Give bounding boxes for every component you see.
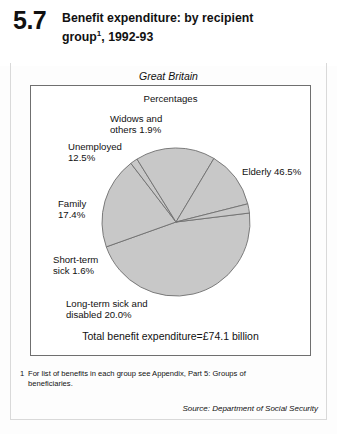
pie-label-family: Family 17.4% (58, 198, 86, 221)
title-line-1: Benefit expenditure: by recipient (62, 11, 253, 25)
pie-slices (102, 148, 250, 296)
region-label: Great Britain (0, 70, 337, 82)
pie-label-shortterm-sick: Short-term sick 1.6% (53, 254, 98, 277)
pie-label-widows-others: Widows and others 1.9% (110, 113, 162, 136)
footnote: 1 For list of benefits in each group see… (20, 369, 280, 388)
pie-label-elderly: Elderly 46.5% (242, 166, 301, 177)
footnote-number: 1 (20, 369, 24, 379)
total-expenditure-label: Total benefit expenditure=£74.1 billion (30, 330, 311, 342)
pie-label-longterm-sick: Long-term sick and disabled 20.0% (66, 298, 148, 321)
figure-number: 5.7 (13, 8, 46, 33)
footnote-text: For list of benefits in each group see A… (28, 369, 280, 388)
figure-header: 5.7 Benefit expenditure: by recipientgro… (0, 0, 337, 66)
figure-page: 5.7 Benefit expenditure: by recipientgro… (0, 0, 337, 434)
title-line-2-after: , 1992-93 (101, 30, 153, 44)
page-title: Benefit expenditure: by recipientgroup1,… (62, 11, 282, 45)
pie-label-unemployed: Unemployed 12.5% (68, 141, 122, 164)
source-note: Source: Department of Social Security (0, 404, 318, 413)
title-line-2-before: group (62, 30, 97, 44)
